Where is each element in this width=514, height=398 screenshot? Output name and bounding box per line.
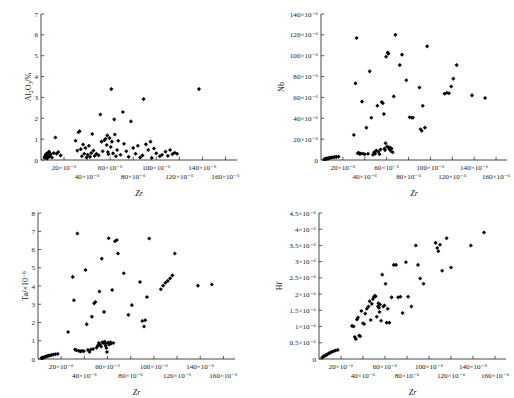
data-point	[109, 145, 113, 149]
svg-text:Al2O3/%: Al2O3/%	[24, 72, 34, 101]
data-point	[133, 152, 137, 156]
data-point	[423, 126, 427, 130]
data-point	[369, 318, 373, 322]
data-point	[425, 44, 429, 48]
data-point	[438, 243, 442, 247]
x-tick-label: 160×10⁻⁶	[211, 173, 240, 181]
data-point	[66, 330, 70, 334]
x-tick-label: 160×10⁻⁶	[482, 173, 511, 181]
y-tick-label: 3.5×10⁻⁶	[290, 242, 317, 250]
data-point	[85, 322, 89, 326]
data-point	[363, 312, 367, 316]
data-point	[75, 231, 79, 235]
data-point	[119, 153, 123, 157]
data-point	[387, 321, 391, 325]
data-point	[146, 148, 150, 152]
data-point	[116, 139, 120, 143]
y-tick-label: 5	[34, 52, 38, 60]
data-point	[168, 148, 172, 152]
x-tick-label: 20×10⁻⁶	[52, 164, 77, 172]
y-axis-title: Hf	[275, 281, 284, 290]
data-point	[482, 230, 486, 234]
chart-panel-top-left: 0123456720×10⁻⁶40×10⁻⁶60×10⁻⁶80×10⁻⁶100×…	[0, 0, 257, 199]
x-axis-title: Zr	[135, 189, 143, 198]
data-point	[87, 144, 91, 148]
data-point	[144, 142, 148, 146]
data-point	[71, 275, 75, 279]
data-point	[116, 251, 120, 255]
y-tick-label: 7	[34, 11, 38, 19]
data-point	[142, 324, 146, 328]
data-point	[109, 87, 113, 91]
data-point	[416, 263, 420, 267]
data-point	[152, 146, 156, 150]
y-tick-label: 140×10⁻⁶	[290, 11, 319, 19]
chart-panel-bottom-right: 00.5×10⁻⁶1×10⁻⁶1.5×10⁻⁶2×10⁻⁶2.5×10⁻⁶3×1…	[257, 199, 514, 398]
y-tick-label: 2.5×10⁻⁶	[290, 274, 317, 282]
data-point	[380, 273, 384, 277]
y-tick-label: 1	[34, 136, 38, 144]
axis-frame	[38, 213, 235, 359]
data-point	[97, 289, 101, 293]
y-axis-title: Nb	[277, 82, 286, 92]
data-point	[101, 149, 105, 153]
data-point	[143, 318, 147, 322]
data-points	[39, 231, 213, 360]
data-point	[138, 280, 142, 284]
y-tick-label: 3×10⁻⁶	[295, 258, 317, 266]
data-point	[353, 81, 357, 85]
x-tick-label: 40×10⁻⁶	[352, 173, 377, 181]
x-axis-title: Zr	[133, 388, 141, 397]
y-tick-label: 4.5×10⁻⁶	[290, 210, 317, 218]
x-tick-label: 60×10⁻⁶	[98, 164, 123, 172]
data-point	[210, 282, 214, 286]
data-point	[59, 153, 63, 157]
y-axis-title: Ta/×10⁻⁶	[21, 271, 30, 301]
data-point	[122, 271, 126, 275]
data-point	[382, 112, 386, 116]
data-point	[98, 112, 102, 116]
data-point	[384, 282, 388, 286]
x-axis: 20×10⁻⁶40×10⁻⁶60×10⁻⁶80×10⁻⁶100×10⁻⁶120×…	[49, 356, 238, 380]
x-tick-label: 80×10⁻⁶	[395, 372, 420, 380]
x-tick-label: 120×10⁻⁶	[438, 173, 467, 181]
data-point	[368, 69, 372, 73]
y-axis: 00.5×10⁻⁶1×10⁻⁶1.5×10⁻⁶2×10⁻⁶2.5×10⁻⁶3×1…	[290, 210, 323, 364]
x-tick-label: 140×10⁻⁶	[459, 363, 488, 371]
data-point	[159, 287, 163, 291]
data-point	[90, 315, 94, 319]
y-tick-label: 0	[31, 356, 35, 364]
data-point	[140, 319, 144, 323]
data-point	[105, 350, 109, 354]
data-point	[434, 241, 438, 245]
y-tick-label: 2	[31, 319, 35, 327]
data-point	[384, 55, 388, 59]
x-tick-label: 120×10⁻⁶	[165, 173, 194, 181]
data-point	[364, 126, 368, 130]
y-tick-label: 5	[31, 264, 35, 272]
y-tick-label: 2×10⁻⁶	[295, 291, 317, 299]
y-axis-title: Al2O3/%	[24, 72, 34, 101]
y-tick-label: 120×10⁻⁶	[290, 31, 319, 39]
y-tick-label: 0	[314, 157, 318, 165]
data-point	[110, 140, 114, 144]
chart-panel-bottom-left: 01234567820×10⁻⁶40×10⁻⁶60×10⁻⁶80×10⁻⁶100…	[0, 199, 257, 398]
y-tick-label: 60×10⁻⁶	[293, 94, 318, 102]
data-point	[469, 243, 473, 247]
data-point	[451, 77, 455, 81]
data-point	[53, 135, 57, 139]
data-point	[435, 246, 439, 250]
x-tick-label: 60×10⁻⁶	[95, 363, 120, 371]
y-axis: 020×10⁻⁶40×10⁻⁶60×10⁻⁶80×10⁻⁶100×10⁻⁶120…	[290, 11, 324, 165]
data-point	[74, 139, 78, 143]
data-point	[130, 303, 134, 307]
data-point	[375, 104, 379, 108]
data-point	[127, 155, 131, 159]
data-points	[42, 87, 201, 160]
data-point	[197, 87, 201, 91]
data-point	[352, 133, 356, 137]
data-point	[417, 85, 421, 89]
data-point	[83, 268, 87, 272]
x-tick-label: 20×10⁻⁶	[331, 164, 356, 172]
data-point	[470, 93, 474, 97]
